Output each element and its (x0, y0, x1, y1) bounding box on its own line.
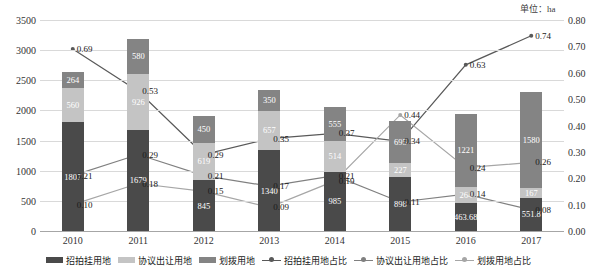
x-axis-tick: 2013 (259, 235, 279, 246)
bar-column[interactable]: 1679926580 (127, 20, 149, 231)
gridline (40, 50, 564, 51)
bar-segment[interactable] (193, 116, 215, 143)
legend-item[interactable]: 协议出让用地占比 (354, 254, 448, 267)
line-value-label: 0.74 (535, 31, 551, 41)
gridline (40, 201, 564, 202)
x-axis-line (40, 231, 564, 232)
y-axis-tick-right: 0.30 (568, 146, 606, 157)
legend-item[interactable]: 协议出让用地 (118, 254, 192, 267)
legend-item[interactable]: 招拍挂用地占比 (262, 254, 347, 267)
line-value-label: 0.21 (77, 171, 93, 181)
legend-label: 协议出让用地 (138, 254, 192, 267)
y-axis-tick-left: 3000 (2, 45, 36, 56)
y-axis-tick-right: 0.00 (568, 226, 606, 237)
bar-segment[interactable] (455, 114, 477, 188)
y-axis-tick-left: 3500 (2, 15, 36, 26)
y-axis-tick-left: 500 (2, 195, 36, 206)
bar-segment[interactable] (520, 92, 542, 187)
y-axis-tick-left: 0 (2, 226, 36, 237)
y-axis-tick-left: 1500 (2, 135, 36, 146)
x-axis-tick: 2017 (521, 235, 541, 246)
y-axis-tick-left: 2500 (2, 75, 36, 86)
bar-segment[interactable] (62, 72, 84, 88)
line-value-label: 0.15 (208, 186, 224, 196)
y-axis-tick-left: 2000 (2, 105, 36, 116)
legend-label: 划拨用地占比 (477, 254, 531, 267)
y-axis-tick-right: 0.40 (568, 120, 606, 131)
legend-line-marker-icon (455, 256, 474, 265)
y-axis-tick-right: 0.60 (568, 67, 606, 78)
bar-segment[interactable] (324, 141, 346, 172)
y-axis-tick-right: 0.80 (568, 15, 606, 26)
bar-column[interactable]: 551.81671580 (520, 20, 542, 231)
legend-line-marker-icon (262, 256, 281, 265)
bar-column[interactable]: 845619450 (193, 20, 215, 231)
bar-segment[interactable] (62, 88, 84, 122)
line-value-label: 0.29 (142, 150, 158, 160)
line-value-label: 0.18 (142, 179, 158, 189)
legend-item[interactable]: 划拨用地 (199, 254, 255, 267)
x-axis-tick: 2014 (325, 235, 345, 246)
bar-segment[interactable] (520, 188, 542, 198)
line-value-label: 0.17 (273, 181, 289, 191)
y-axis-tick-right: 0.10 (568, 199, 606, 210)
line-value-label: 0.29 (208, 150, 224, 160)
x-axis-tick: 2012 (194, 235, 214, 246)
line-value-label: 0.09 (273, 202, 289, 212)
line-value-label: 0.10 (77, 200, 93, 210)
legend-label: 招拍挂用地占比 (284, 254, 347, 267)
legend-swatch-icon (199, 257, 216, 263)
line-value-label: 0.37 (339, 128, 355, 138)
x-axis-tick: 2015 (390, 235, 410, 246)
y-axis-tick-right: 0.20 (568, 173, 606, 184)
chart-legend: 招拍挂用地协议出让用地划拨用地招拍挂用地占比协议出让用地占比划拨用地占比 (46, 252, 602, 268)
gridline (40, 141, 564, 142)
line-value-label: 0.08 (535, 205, 551, 215)
line-value-label: 0.53 (142, 86, 158, 96)
bar-segment[interactable] (455, 203, 477, 231)
bar-segment[interactable] (258, 90, 280, 111)
line-value-label: 0.69 (77, 44, 93, 54)
line-value-label: 0.24 (470, 163, 486, 173)
y-axis-tick-right: 0.50 (568, 94, 606, 105)
gridline (40, 20, 564, 21)
x-axis-tick: 2011 (128, 235, 148, 246)
bar-segment[interactable] (258, 111, 280, 151)
legend-item[interactable]: 招拍挂用地 (46, 254, 111, 267)
stacked-bar-line-chart: 单位：ha 05001000150020002500300035000.000.… (0, 0, 609, 273)
line-value-label: 0.35 (273, 134, 289, 144)
line-value-label: 0.34 (404, 136, 420, 146)
legend-label: 招拍挂用地 (66, 254, 111, 267)
bar-segment[interactable] (389, 163, 411, 177)
legend-swatch-icon (118, 257, 135, 263)
line-series-layer (40, 20, 564, 231)
bar-column[interactable]: 985514555 (324, 20, 346, 231)
line-value-label: 0.19 (339, 176, 355, 186)
legend-label: 协议出让用地占比 (376, 254, 448, 267)
legend-item[interactable]: 划拨用地占比 (455, 254, 531, 267)
x-axis-tick: 2016 (456, 235, 476, 246)
gridline (40, 110, 564, 111)
line-value-label: 0.21 (208, 171, 224, 181)
bar-column[interactable]: 463.682641221 (455, 20, 477, 231)
legend-swatch-icon (46, 257, 63, 263)
x-axis-tick: 2010 (63, 235, 83, 246)
bar-segment[interactable] (127, 39, 149, 74)
bar-segment[interactable] (127, 74, 149, 130)
legend-line-marker-icon (354, 256, 373, 265)
line-value-label: 0.14 (470, 189, 486, 199)
y-axis-tick-right: 0.70 (568, 41, 606, 52)
y-axis-tick-left: 1000 (2, 165, 36, 176)
bar-column[interactable]: 1340657350 (258, 20, 280, 231)
plot-area: 05001000150020002500300035000.000.100.20… (40, 20, 564, 231)
line-value-label: 0.26 (535, 157, 551, 167)
line-value-label: 0.63 (470, 60, 486, 70)
gridline (40, 80, 564, 81)
line-value-label: 0.11 (404, 197, 419, 207)
unit-note: 单位：ha (520, 2, 556, 15)
legend-label: 划拨用地 (219, 254, 255, 267)
line-value-label: 0.44 (404, 110, 420, 120)
